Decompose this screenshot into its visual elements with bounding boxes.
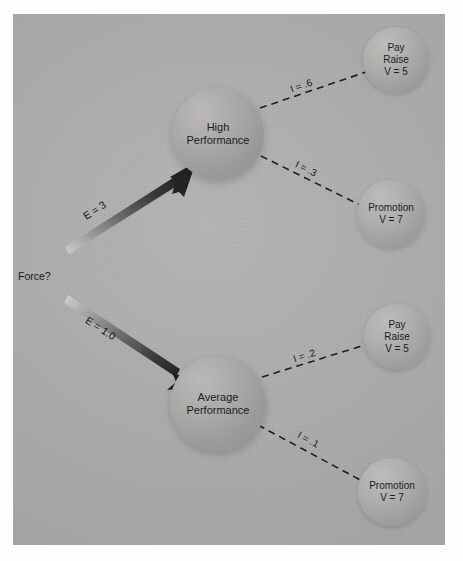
edge-hp-to-pay-raise <box>260 72 366 108</box>
node-high-promotion-label: Promotion V = 7 <box>368 202 414 226</box>
edge-ap-to-promotion <box>258 425 364 482</box>
node-average-pay-raise-label: Pay Raise V = 5 <box>384 319 410 354</box>
source-label-force: Force? <box>18 270 51 282</box>
node-average-performance[interactable]: Average Performance <box>170 356 266 452</box>
node-high-promotion[interactable]: Promotion V = 7 <box>357 180 425 248</box>
node-average-promotion-label: Promotion V = 7 <box>369 480 415 504</box>
node-high-performance[interactable]: High Performance <box>172 88 264 180</box>
node-average-promotion[interactable]: Promotion V = 7 <box>358 458 426 526</box>
node-average-pay-raise[interactable]: Pay Raise V = 5 <box>364 304 430 370</box>
diagram-stage: High Performance Average Performance Pay… <box>0 0 463 561</box>
edge-hp-to-promotion <box>261 156 362 206</box>
edge-ap-to-pay-raise <box>262 344 368 377</box>
node-high-pay-raise-label: Pay Raise V = 5 <box>383 42 409 77</box>
node-high-pay-raise[interactable]: Pay Raise V = 5 <box>363 27 429 93</box>
node-average-performance-label: Average Performance <box>187 391 250 417</box>
node-high-performance-label: High Performance <box>187 121 250 147</box>
